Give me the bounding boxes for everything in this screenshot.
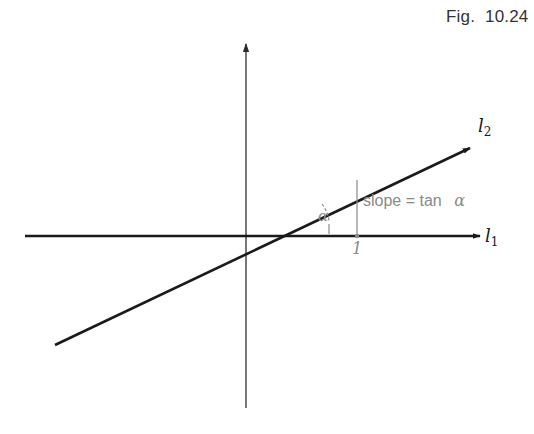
coordinate-diagram: α 1 slope = tan α l2 l1 xyxy=(0,0,534,434)
unit-tick-label: 1 xyxy=(352,239,362,258)
axis-l1-label: l1 xyxy=(485,225,498,249)
l2-subscript: 2 xyxy=(484,125,492,139)
l1-subscript: 1 xyxy=(491,235,499,249)
line-l2 xyxy=(55,148,470,345)
slope-text: slope = tan xyxy=(363,192,442,209)
slope-annotation: slope = tan α xyxy=(363,191,465,210)
unit-tick-marker xyxy=(355,234,359,238)
angle-alpha-label: α xyxy=(318,207,328,225)
line-l2-label: l2 xyxy=(478,115,491,139)
slope-alpha-symbol: α xyxy=(454,191,465,210)
